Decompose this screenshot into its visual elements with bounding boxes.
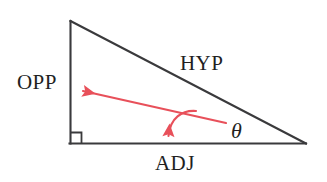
right-angle-marker-icon xyxy=(71,133,82,144)
hypotenuse-side-label: HYP xyxy=(180,51,223,75)
adjacent-side-label: ADJ xyxy=(155,151,195,175)
diagram-canvas: OPP HYP ADJ θ xyxy=(0,0,327,182)
opposite-pointer-arrow-icon xyxy=(83,91,226,123)
hypotenuse-side-line xyxy=(71,21,307,144)
theta-angle-label: θ xyxy=(231,118,242,143)
opposite-side-label: OPP xyxy=(17,70,57,94)
trigonometry-diagram: OPP HYP ADJ θ xyxy=(0,0,327,182)
